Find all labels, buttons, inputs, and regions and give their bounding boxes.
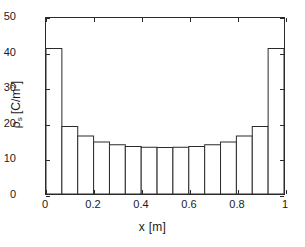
y-tick-mark — [46, 54, 50, 55]
bar — [157, 148, 173, 194]
bar — [268, 49, 284, 194]
x-tick-label: 0.4 — [121, 199, 161, 210]
x-tick-mark — [94, 18, 95, 22]
x-tick-mark — [286, 18, 287, 22]
y-tick-label: 0 — [0, 189, 16, 200]
x-tick-label: 0.8 — [217, 199, 257, 210]
x-tick-mark — [94, 190, 95, 194]
x-tick-label: 0 — [25, 199, 65, 210]
figure-canvas: 01020304050 00.20.40.60.81 x [m] ρs [C/m… — [0, 0, 305, 247]
y-tick-mark — [280, 54, 284, 55]
bar — [252, 126, 268, 194]
x-tick-mark — [238, 18, 239, 22]
x-tick-mark — [142, 18, 143, 22]
y-axis-exponent: 2 — [9, 84, 18, 88]
x-tick-mark — [238, 190, 239, 194]
bar — [189, 146, 205, 194]
y-tick-mark — [280, 196, 284, 197]
x-tick-mark — [190, 190, 191, 194]
y-axis-subscript: s — [15, 117, 24, 121]
y-tick-mark — [280, 89, 284, 90]
y-axis-title: ρs [C/m2] — [9, 45, 24, 165]
bar — [109, 145, 125, 194]
bar — [94, 142, 110, 194]
bar — [221, 142, 237, 194]
x-tick-label: 1 — [265, 199, 305, 210]
bar-series — [46, 18, 284, 194]
bar — [62, 126, 78, 194]
plot-area — [45, 17, 285, 195]
y-tick-mark — [280, 18, 284, 19]
x-tick-label: 0.6 — [169, 199, 209, 210]
bar — [46, 49, 62, 194]
y-tick-mark — [280, 160, 284, 161]
bar — [173, 147, 189, 194]
bar — [125, 146, 141, 194]
x-tick-mark — [46, 190, 47, 194]
x-tick-mark — [46, 18, 47, 22]
y-tick-mark — [46, 196, 50, 197]
y-tick-mark — [46, 125, 50, 126]
y-tick-label: 50 — [0, 11, 16, 22]
y-axis-unit-close: ] — [9, 81, 23, 84]
bar — [78, 136, 94, 194]
y-tick-mark — [46, 89, 50, 90]
y-axis-symbol: ρ — [9, 121, 23, 128]
x-tick-mark — [190, 18, 191, 22]
bar — [205, 145, 221, 194]
bar — [236, 136, 252, 194]
y-axis-unit-open: [C/m — [9, 89, 23, 118]
x-axis-title: x [m] — [0, 220, 305, 234]
x-tick-mark — [142, 190, 143, 194]
y-tick-mark — [46, 160, 50, 161]
bar — [141, 147, 157, 194]
x-tick-label: 0.2 — [73, 199, 113, 210]
y-tick-mark — [280, 125, 284, 126]
x-axis-title-text: x [m] — [139, 220, 167, 234]
x-tick-mark — [286, 190, 287, 194]
